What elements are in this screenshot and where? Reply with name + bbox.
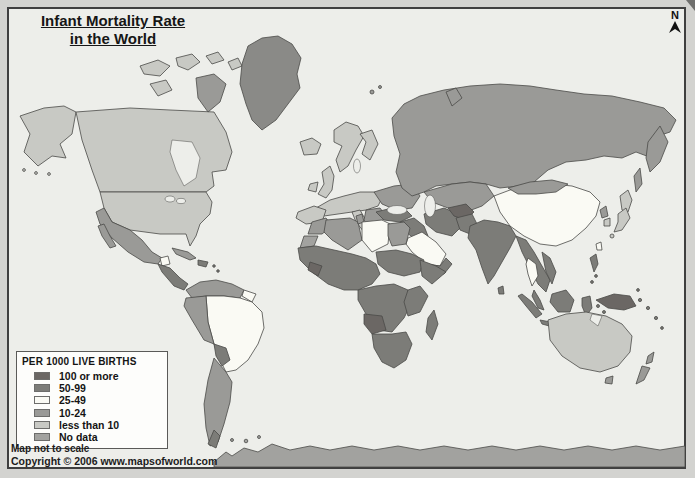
legend-swatch-no-data [34,433,50,441]
region-antarctica [214,444,685,467]
region-svalbard [370,90,374,94]
region-pacific-island [646,306,649,309]
region-pacific-island [637,289,640,292]
compass-label: N [667,10,683,21]
region-borneo [550,290,574,312]
legend-swatch-10-24 [34,409,50,417]
region-japan [614,208,630,232]
region-ireland [308,182,318,192]
region-moluccas [597,305,600,308]
region-antarctic-island [244,439,248,443]
region-colombia-venezuela [186,280,244,298]
region-aleutians [48,173,51,176]
region-central-america [158,264,188,290]
region-new-zealand [646,352,654,364]
region-new-guinea [596,294,636,310]
title-line-1: Infant Mortality Rate [41,12,185,29]
region-arctic-island [140,60,170,76]
scan-artifact [686,0,695,11]
legend: PER 1000 LIVE BIRTHS 100 or more 50-99 2… [16,351,168,449]
legend-row: less than 10 [22,419,163,431]
region-uk [318,166,334,198]
copyright: Copyright © 2006 www.mapsofworld.com [11,455,217,468]
scanned-map-page: Infant Mortality Rate in the World N PER… [0,0,695,478]
region-south-korea [604,218,610,226]
compass: N [667,10,683,33]
region-philippines [595,275,598,278]
region-hispaniola [198,260,208,267]
region-libya [362,220,390,252]
region-india [468,220,516,284]
caspian-sea [425,195,436,217]
region-philippines [590,254,598,272]
legend-label: less than 10 [59,419,119,431]
region-pacific-island [654,316,657,319]
great-lakes [165,196,175,202]
legend-swatch-50-99 [34,384,50,392]
region-southern-africa [372,332,412,368]
region-angola [364,314,386,334]
region-russia [392,84,676,196]
region-baffin-island [196,74,226,112]
region-alaska [20,106,76,166]
region-taiwan [596,242,602,250]
region-finland [360,130,378,160]
legend-label: 25-49 [59,394,86,406]
region-caribbean-island [217,270,220,273]
region-antarctic-island [258,436,261,439]
north-arrow-icon [668,21,682,33]
region-svalbard [379,86,382,89]
region-iceland [300,138,321,155]
region-moluccas [603,311,606,314]
map-title: Infant Mortality Rate in the World [18,12,208,48]
region-egypt [388,222,410,246]
region-arctic-island [228,58,242,70]
region-aleutians [35,172,38,175]
map-notes: Map not to scale Copyright © 2006 www.ma… [11,443,217,468]
region-arctic-island [176,54,200,70]
region-canada [76,108,232,192]
legend-swatch-25-49 [34,396,50,404]
baltic-sea [354,159,361,173]
scale-note: Map not to scale [11,443,217,455]
legend-swatch-less-than-10 [34,421,50,429]
region-east-africa [404,286,428,316]
region-arctic-island [150,80,172,96]
legend-row: 50-99 [22,382,163,394]
region-pacific-island [661,327,664,330]
legend-title: PER 1000 LIVE BIRTHS [22,356,163,367]
region-new-zealand [636,366,650,384]
region-falklands [231,439,234,442]
region-cuba [172,248,196,260]
legend-label: No data [59,431,98,443]
region-madagascar [426,310,438,340]
region-philippines [591,281,594,284]
legend-row: No data [22,431,163,443]
region-aleutians [23,169,26,172]
legend-label: 100 or more [59,370,119,382]
legend-row: 100 or more [22,370,163,382]
region-kyushu [610,234,614,238]
region-sri-lanka [498,286,504,294]
legend-label: 10-24 [59,407,86,419]
title-line-2: in the World [70,30,156,47]
region-tasmania [605,376,613,384]
region-sakhalin [634,168,642,192]
region-yucatan [160,256,170,266]
region-algeria [324,218,362,250]
black-sea [387,206,407,215]
great-lakes [177,198,186,203]
region-north-korea [600,206,608,218]
region-australia [548,312,632,372]
region-pacific-island [638,298,641,301]
legend-row: 10-24 [22,407,163,419]
legend-label: 50-99 [59,382,86,394]
legend-row: 25-49 [22,394,163,406]
region-greenland [240,36,301,130]
region-arctic-island [206,52,224,64]
legend-swatch-100-or-more [34,372,50,380]
region-caribbean-island [213,265,216,268]
